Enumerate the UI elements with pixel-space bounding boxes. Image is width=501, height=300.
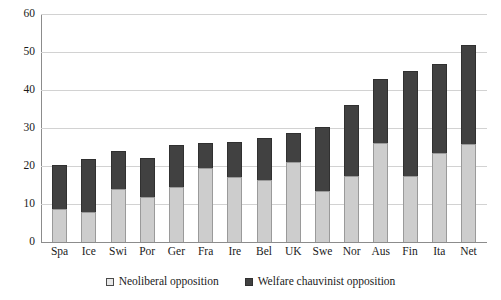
x-tick-label: Swi — [103, 246, 132, 266]
bar-group[interactable] — [425, 14, 454, 242]
x-tick-label: UK — [279, 246, 308, 266]
bar-segment-neoliberal[interactable] — [111, 189, 126, 242]
bar-group[interactable] — [395, 14, 424, 242]
x-tick-label: Ire — [220, 246, 249, 266]
bar-group[interactable] — [191, 14, 220, 242]
bar-stack[interactable] — [403, 71, 418, 242]
bar-stack[interactable] — [286, 133, 301, 242]
plot-area — [41, 14, 487, 242]
bar-group[interactable] — [249, 14, 278, 242]
x-tick-label: Fin — [395, 246, 424, 266]
bar-group[interactable] — [162, 14, 191, 242]
x-tick-label: Ita — [425, 246, 454, 266]
y-tick-label: 0 — [0, 236, 35, 248]
bar-group[interactable] — [103, 14, 132, 242]
bar-stack[interactable] — [111, 151, 126, 242]
bar-segment-neoliberal[interactable] — [315, 191, 330, 242]
x-tick-label: Por — [133, 246, 162, 266]
bar-segment-welfare-chauvinist[interactable] — [52, 165, 67, 208]
y-tick-label: 40 — [0, 84, 35, 96]
bar-group[interactable] — [220, 14, 249, 242]
bar-segment-welfare-chauvinist[interactable] — [432, 64, 447, 153]
bar-group[interactable] — [337, 14, 366, 242]
bar-segment-welfare-chauvinist[interactable] — [373, 79, 388, 144]
legend-swatch-dark-icon — [245, 278, 253, 286]
bar-segment-welfare-chauvinist[interactable] — [81, 159, 96, 211]
bar-stack[interactable] — [198, 143, 213, 242]
bar-segment-neoliberal[interactable] — [227, 177, 242, 242]
bar-segment-neoliberal[interactable] — [344, 176, 359, 243]
x-tick-label: Fra — [191, 246, 220, 266]
x-tick-label: Ice — [74, 246, 103, 266]
x-axis-tick-labels: SpaIceSwiPorGerFraIreBelUKSweNorAusFinIt… — [41, 246, 487, 266]
bar-stack[interactable] — [315, 127, 330, 242]
bar-group[interactable] — [279, 14, 308, 242]
y-tick-label: 60 — [0, 8, 35, 20]
bar-stack[interactable] — [169, 145, 184, 242]
bar-segment-neoliberal[interactable] — [140, 197, 155, 242]
bar-stack[interactable] — [344, 105, 359, 242]
x-tick-label: Swe — [308, 246, 337, 266]
bar-segment-neoliberal[interactable] — [81, 212, 96, 242]
bar-segment-neoliberal[interactable] — [373, 143, 388, 242]
bar-stack[interactable] — [257, 138, 272, 242]
legend-label: Welfare chauvinist opposition — [258, 276, 396, 288]
bar-segment-neoliberal[interactable] — [52, 209, 67, 242]
bar-segment-welfare-chauvinist[interactable] — [344, 105, 359, 175]
x-tick-label: Nor — [337, 246, 366, 266]
bar-group[interactable] — [74, 14, 103, 242]
bars-layer — [41, 14, 487, 242]
bar-segment-welfare-chauvinist[interactable] — [227, 142, 242, 177]
bar-segment-neoliberal[interactable] — [403, 176, 418, 242]
stacked-bar-chart: 6050403020100 SpaIceSwiPorGerFraIreBelUK… — [0, 0, 501, 300]
bar-group[interactable] — [133, 14, 162, 242]
gridline-0 — [41, 242, 487, 243]
x-tick-label: Bel — [249, 246, 278, 266]
bar-segment-welfare-chauvinist[interactable] — [257, 138, 272, 180]
bar-stack[interactable] — [140, 158, 155, 242]
bar-segment-welfare-chauvinist[interactable] — [461, 45, 476, 144]
bar-segment-welfare-chauvinist[interactable] — [169, 145, 184, 187]
bar-group[interactable] — [366, 14, 395, 242]
bar-stack[interactable] — [52, 165, 67, 242]
legend-item[interactable]: Neoliberal opposition — [106, 276, 219, 288]
bar-segment-welfare-chauvinist[interactable] — [315, 127, 330, 191]
bar-segment-neoliberal[interactable] — [257, 180, 272, 242]
legend-label: Neoliberal opposition — [119, 276, 219, 288]
bar-stack[interactable] — [461, 45, 476, 242]
bar-segment-neoliberal[interactable] — [286, 162, 301, 242]
y-tick-label: 30 — [0, 122, 35, 134]
bar-segment-welfare-chauvinist[interactable] — [140, 158, 155, 197]
bar-stack[interactable] — [373, 79, 388, 242]
chart-legend: Neoliberal oppositionWelfare chauvinist … — [0, 276, 501, 288]
bar-group[interactable] — [45, 14, 74, 242]
bar-group[interactable] — [308, 14, 337, 242]
x-tick-label: Net — [454, 246, 483, 266]
y-tick-label: 50 — [0, 46, 35, 58]
bar-segment-neoliberal[interactable] — [461, 144, 476, 242]
legend-swatch-light-icon — [106, 278, 114, 286]
legend-item[interactable]: Welfare chauvinist opposition — [245, 276, 396, 288]
bar-stack[interactable] — [81, 159, 96, 242]
y-tick-label: 20 — [0, 160, 35, 172]
bar-segment-welfare-chauvinist[interactable] — [111, 151, 126, 189]
bar-segment-neoliberal[interactable] — [432, 153, 447, 242]
bar-stack[interactable] — [227, 142, 242, 242]
bar-segment-welfare-chauvinist[interactable] — [198, 143, 213, 168]
x-tick-label: Ger — [162, 246, 191, 266]
bar-segment-welfare-chauvinist[interactable] — [403, 71, 418, 176]
bar-stack[interactable] — [432, 64, 447, 242]
y-tick-label: 10 — [0, 198, 35, 210]
bar-segment-welfare-chauvinist[interactable] — [286, 133, 301, 162]
x-tick-label: Spa — [45, 246, 74, 266]
bar-segment-neoliberal[interactable] — [198, 168, 213, 242]
bar-group[interactable] — [454, 14, 483, 242]
x-tick-label: Aus — [366, 246, 395, 266]
bar-segment-neoliberal[interactable] — [169, 187, 184, 242]
